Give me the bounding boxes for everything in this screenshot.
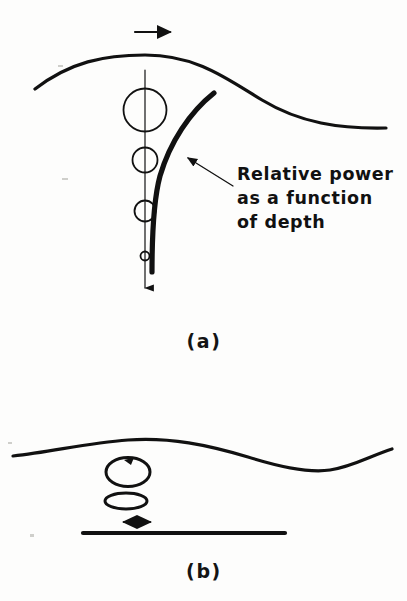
panel-b-caption: (b) <box>186 560 222 582</box>
wave-motion-figure: Relative power as a function of depth (a… <box>0 0 407 601</box>
shallow-water-surface-profile <box>13 439 392 470</box>
lower-orbit-ellipse <box>105 493 147 509</box>
annotation-leader-line <box>188 158 233 186</box>
annotation-line-3: of depth <box>237 212 325 232</box>
paper-speck <box>8 442 12 444</box>
relative-power-curve <box>152 93 214 272</box>
panel-a-caption: (a) <box>187 330 222 352</box>
water-surface-profile <box>35 55 386 128</box>
panel-a: Relative power as a function of depth (a… <box>35 32 394 352</box>
paper-speck <box>62 178 68 180</box>
figure-root: Relative power as a function of depth (a… <box>0 0 407 601</box>
panel-b: (b) <box>13 439 392 582</box>
paper-speck <box>58 65 63 67</box>
annotation-line-2: as a function <box>237 188 373 208</box>
paper-speck <box>30 534 34 537</box>
annotation-line-1: Relative power <box>237 164 394 184</box>
